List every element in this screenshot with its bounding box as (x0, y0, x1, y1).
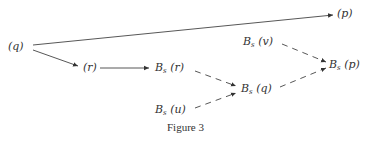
node-bs-r-sub: s (163, 67, 167, 75)
node-q: (q) (8, 41, 24, 53)
node-p: (p) (337, 8, 353, 20)
node-bs-q-arg: (q) (256, 82, 272, 95)
node-bs-q-base: B (241, 82, 249, 95)
node-bs-v-sub: s (251, 41, 255, 49)
node-bs-r-arg: (r) (170, 61, 184, 74)
node-bs-v: Bs (v) (243, 36, 273, 51)
edge-bsr-to-bsq (195, 71, 236, 86)
figure-caption: Figure 3 (167, 121, 204, 133)
node-bs-v-base: B (243, 35, 251, 48)
node-bs-p-sub: s (337, 64, 341, 72)
edge-q-to-p (33, 15, 333, 45)
node-bs-q: Bs (q) (241, 83, 272, 98)
node-bs-v-arg: (v) (258, 35, 273, 48)
node-bs-q-sub: s (249, 88, 253, 96)
node-q-label: (q) (8, 40, 24, 53)
edge-bsq-to-bsp (280, 68, 326, 87)
node-bs-u-base: B (155, 103, 163, 116)
node-r: (r) (83, 62, 97, 74)
figure-3-diagram: (q) (p) (r) Bs (r) Bs (v) Bs (p) Bs (q) … (0, 0, 367, 144)
node-p-label: (p) (337, 7, 353, 20)
node-bs-u: Bs (u) (155, 104, 186, 119)
node-bs-r: Bs (r) (155, 62, 184, 77)
node-bs-r-base: B (155, 61, 163, 74)
node-bs-p: Bs (p) (329, 59, 360, 74)
node-bs-u-arg: (u) (170, 103, 186, 116)
edge-bsv-to-bsp (282, 44, 326, 62)
node-bs-p-arg: (p) (344, 58, 360, 71)
edge-bsu-to-bsq (195, 93, 236, 108)
node-bs-p-base: B (329, 58, 337, 71)
edge-q-to-r (33, 50, 78, 66)
node-r-label: (r) (83, 61, 97, 74)
node-bs-u-sub: s (163, 109, 167, 117)
